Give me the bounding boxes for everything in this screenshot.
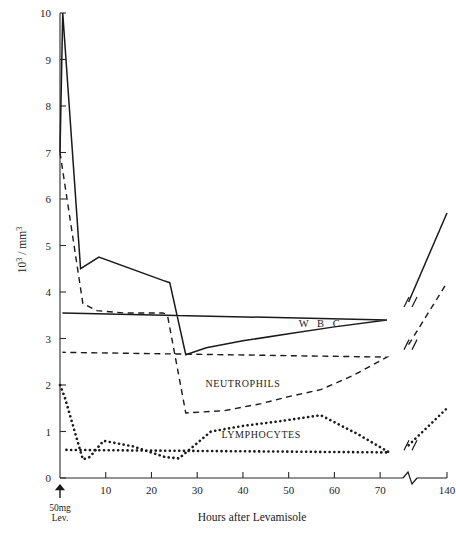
series-label-lymphocytes: LYMPHOCYTES <box>221 429 301 440</box>
series-line-neutrophils-right <box>409 283 447 345</box>
y-tick-label-4: 4 <box>46 286 52 298</box>
series-break-marks <box>404 297 417 450</box>
data-series-group <box>60 13 447 459</box>
x-tick-label-50: 50 <box>283 484 295 496</box>
x-tick-label-30: 30 <box>192 484 204 496</box>
y-tick-label-1: 1 <box>46 426 52 438</box>
x-axis-break-mark <box>403 472 417 484</box>
series-label-w-b-c: W B C <box>299 318 343 329</box>
y-tick-label-7: 7 <box>46 147 52 159</box>
y-axis-title-unit-exponent: 3 <box>15 227 24 231</box>
series-line-neutrophils-left <box>60 153 387 413</box>
x-tick-label-70: 70 <box>375 484 387 496</box>
y-axis-title-separator: / <box>16 249 28 258</box>
y-tick-label-6: 6 <box>46 193 52 205</box>
series-line-w-b-c-left <box>60 13 387 355</box>
x-tick-label-10: 10 <box>100 484 112 496</box>
y-tick-label-8: 8 <box>46 100 52 112</box>
y-tick-label-0: 0 <box>46 472 52 484</box>
axes-group <box>60 13 447 484</box>
x-axis-title-text: Hours after Levamisole <box>198 511 307 523</box>
x-tick-label-20: 20 <box>146 484 158 496</box>
y-tick-label-3: 3 <box>46 333 52 345</box>
y-axis-title-unit: mm <box>16 231 28 249</box>
x-tick-label-60: 60 <box>329 484 341 496</box>
y-tick-label-2: 2 <box>46 379 52 391</box>
y-axis-title-text: 103 / mm3 <box>15 227 28 273</box>
x-axis-ticks: 10203040506070140 <box>100 472 456 496</box>
y-axis-title-base: 10 <box>16 261 28 273</box>
dose-annotation: 50mg Lev. <box>49 485 71 523</box>
y-axis-title: 103 / mm3 <box>15 227 28 273</box>
series-break-mark-lymphocytes <box>404 440 417 450</box>
y-tick-label-5: 5 <box>46 240 52 252</box>
y-tick-label-10: 10 <box>40 7 52 19</box>
y-tick-label-9: 9 <box>46 54 52 66</box>
series-line-lymphocytes-right <box>409 408 447 445</box>
dose-label-line1: 50mg <box>49 503 71 513</box>
chart-container: 012345678910 10203040506070140 W B CNEUT… <box>0 0 456 536</box>
series-line-lymphocytes-left <box>60 385 389 459</box>
series-line-w-b-c-right <box>409 213 447 302</box>
dose-label-line2: Lev. <box>52 513 69 523</box>
x-tick-label-140: 140 <box>439 484 456 496</box>
line-chart-plot: 012345678910 10203040506070140 W B CNEUT… <box>0 0 456 536</box>
series-label-neutrophils: NEUTROPHILS <box>205 378 280 389</box>
x-tick-label-40: 40 <box>237 484 249 496</box>
dose-arrow-icon <box>56 485 63 498</box>
